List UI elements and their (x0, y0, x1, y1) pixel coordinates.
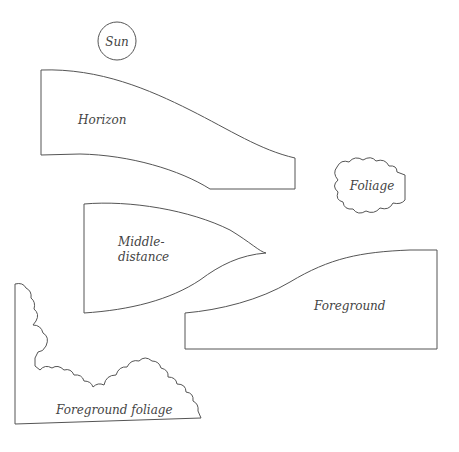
middle-distance-label-line2: distance (118, 250, 169, 264)
landscape-diagram: Sun Horizon Foliage Middle- distance For… (0, 0, 459, 452)
middle-distance-piece: Middle- distance (84, 203, 266, 313)
sun-piece: Sun (98, 22, 136, 60)
middle-distance-label-line1: Middle- (117, 235, 164, 249)
horizon-piece: Horizon (41, 70, 295, 189)
foliage-label: Foliage (349, 179, 395, 193)
foreground-label: Foreground (313, 299, 386, 313)
sun-label: Sun (105, 35, 129, 49)
foreground-foliage-label: Foreground foliage (55, 403, 173, 417)
middle-distance-shape (84, 203, 266, 313)
horizon-shape (41, 70, 295, 189)
foliage-piece: Foliage (335, 158, 406, 213)
horizon-label: Horizon (77, 113, 127, 127)
